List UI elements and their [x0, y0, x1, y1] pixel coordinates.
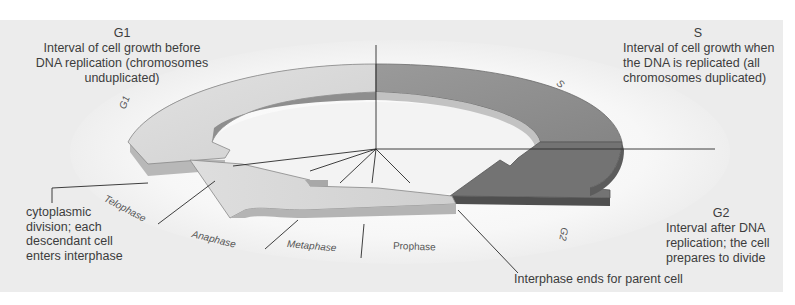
g2-callout-title: G2	[666, 206, 776, 221]
ring-label-g2: G2	[557, 227, 570, 242]
s-callout-line-1: Interval of cell growth when	[623, 41, 793, 56]
cytokinesis-line-2: division; each	[26, 220, 156, 235]
g2-callout: G2 Interval after DNA replication; the c…	[666, 206, 791, 266]
cytokinesis-line-4: enters interphase	[26, 249, 156, 264]
s-callout: S Interval of cell growth when the DNA i…	[623, 26, 793, 86]
g2-callout-line-3: prepares to divide	[666, 251, 791, 266]
g2-callout-line-1: Interval after DNA	[666, 221, 791, 236]
g1-callout-line-1: Interval of cell growth before	[22, 41, 222, 56]
g2-callout-line-2: replication; the cell	[666, 236, 791, 251]
g1-callout-line-3: unduplicated)	[22, 71, 222, 86]
g1-callout-title: G1	[22, 26, 222, 41]
cytokinesis-line-3: descendant cell	[26, 234, 156, 249]
g1-callout: G1 Interval of cell growth before DNA re…	[22, 26, 222, 86]
phase-label-prophase: Prophase	[393, 240, 436, 252]
interphase-end-callout: Interphase ends for parent cell	[514, 272, 683, 287]
g1-callout-line-2: DNA replication (chromosomes	[22, 56, 222, 71]
s-callout-line-3: chromosomes duplicated)	[623, 71, 793, 86]
s-callout-line-2: the DNA is replicated (all	[623, 56, 793, 71]
s-callout-title: S	[623, 26, 773, 41]
